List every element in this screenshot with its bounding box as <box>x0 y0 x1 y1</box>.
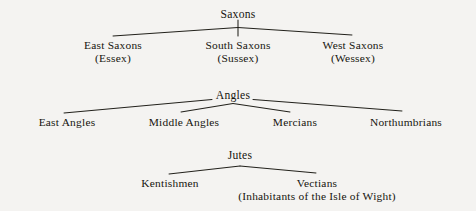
node-sublabel: (Sussex) <box>205 52 270 64</box>
node-sublabel: (Inhabitants of the Isle of Wight) <box>238 190 396 202</box>
jutes-connectors <box>169 166 316 174</box>
angles-branch-far-right <box>253 100 402 112</box>
node-label: Jutes <box>228 150 252 163</box>
node-label: Angles <box>216 90 250 103</box>
node-jutes-root: Jutes <box>228 150 252 163</box>
node-label: Vectians <box>238 177 396 189</box>
angles-branch-inner-left <box>181 104 233 113</box>
saxons-branch-right <box>238 28 352 36</box>
node-mercians: Mercians <box>273 116 317 128</box>
node-west-saxons: West Saxons (Wessex) <box>323 39 384 65</box>
jutes-branch-right <box>240 166 316 173</box>
node-label: Kentishmen <box>141 177 198 189</box>
node-label: East Saxons <box>84 39 142 51</box>
node-label: Saxons <box>221 9 256 22</box>
node-south-saxons: South Saxons (Sussex) <box>205 39 270 65</box>
node-label: West Saxons <box>323 39 384 51</box>
node-vectians: Vectians (Inhabitants of the Isle of Wig… <box>238 177 396 203</box>
node-sublabel: (Essex) <box>84 52 142 64</box>
node-label: Northumbrians <box>370 116 442 128</box>
node-angles-root: Angles <box>216 90 250 103</box>
node-northumbrians: Northumbrians <box>370 116 442 128</box>
saxons-connectors <box>113 20 352 36</box>
node-saxons-root: Saxons <box>221 9 256 22</box>
node-label: Mercians <box>273 116 317 128</box>
jutes-branch-left <box>169 166 240 174</box>
node-sublabel: (Wessex) <box>323 52 384 64</box>
node-label: East Angles <box>39 116 96 128</box>
node-kentishmen: Kentishmen <box>141 177 198 189</box>
node-east-saxons: East Saxons (Essex) <box>84 39 142 65</box>
node-label: Middle Angles <box>149 116 220 128</box>
node-label: South Saxons <box>205 39 270 51</box>
tree-diagram: Saxons East Saxons (Essex) South Saxons … <box>0 0 476 211</box>
node-middle-angles: Middle Angles <box>149 116 220 128</box>
saxons-branch-left <box>113 28 238 37</box>
angles-branch-inner-right <box>233 104 290 113</box>
node-east-angles: East Angles <box>39 116 96 128</box>
